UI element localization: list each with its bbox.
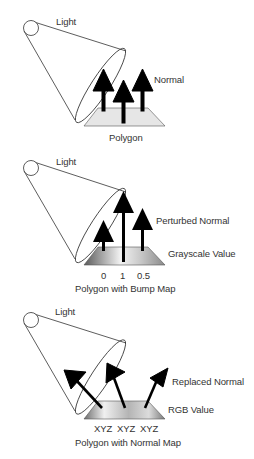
normal-label: Normal [154, 75, 184, 85]
value-tick: 1 [120, 271, 125, 281]
normal-label: Replaced Normal [172, 377, 244, 387]
value-tick: XYZ [94, 424, 112, 434]
value-tick: XYZ [117, 424, 135, 434]
diagram-canvas [0, 0, 254, 459]
light-label: Light [55, 307, 75, 317]
surface-label: Polygon with Normal Map [75, 438, 181, 448]
arrow-icon [132, 208, 153, 251]
value-label: RGB Value [168, 405, 214, 415]
value-tick: 0.5 [137, 271, 150, 281]
arrow-icon [145, 368, 168, 408]
value-tick: XYZ [140, 424, 158, 434]
light-label: Light [56, 157, 76, 167]
value-tick: 0 [101, 271, 106, 281]
normal-label: Perturbed Normal [156, 216, 229, 226]
panel-normalmap [24, 313, 169, 420]
surface-label: Polygon with Bump Map [75, 284, 175, 294]
value-label: Grayscale Value [168, 249, 236, 259]
panel-bump [24, 161, 166, 268]
light-label: Light [56, 17, 76, 27]
surface-label: Polygon [109, 133, 143, 143]
panel-flat [24, 21, 166, 128]
arrow-icon [132, 69, 153, 111]
